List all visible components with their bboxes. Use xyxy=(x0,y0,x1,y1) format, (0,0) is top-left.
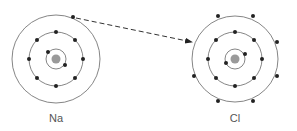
sodium-label: Na xyxy=(36,112,76,124)
nucleus xyxy=(52,55,61,64)
sodium-atom xyxy=(12,15,100,103)
nucleus xyxy=(231,55,240,64)
transfer-arrow xyxy=(76,18,192,42)
diagram-canvas: Na Cl xyxy=(0,0,297,131)
chlorine-atom xyxy=(192,14,279,103)
valence-electron xyxy=(71,15,75,19)
chlorine-label: Cl xyxy=(215,112,255,124)
